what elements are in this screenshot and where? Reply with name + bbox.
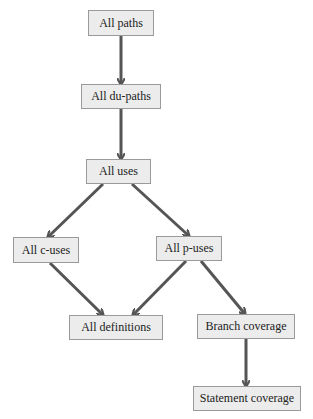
- node-all-definitions: All definitions: [69, 315, 163, 340]
- coverage-criteria-diagram: All paths All du-paths All uses All c-us…: [0, 0, 313, 419]
- arrow-edge: [133, 261, 186, 315]
- node-statement-coverage: Statement coverage: [193, 386, 301, 411]
- node-label: Branch coverage: [206, 319, 287, 334]
- node-label: Statement coverage: [200, 391, 294, 406]
- node-all-paths: All paths: [88, 10, 154, 36]
- node-all-du-paths: All du-paths: [81, 84, 161, 109]
- node-label: All p-uses: [165, 241, 214, 256]
- node-all-c-uses: All c-uses: [13, 237, 79, 263]
- node-label: All c-uses: [22, 243, 70, 258]
- node-all-p-uses: All p-uses: [156, 236, 222, 261]
- node-all-uses: All uses: [86, 159, 151, 184]
- edges-layer: [0, 0, 313, 419]
- node-label: All du-paths: [91, 89, 151, 104]
- node-label: All definitions: [81, 320, 151, 335]
- arrow-edge: [132, 184, 189, 236]
- node-branch-coverage: Branch coverage: [197, 314, 295, 339]
- node-label: All uses: [99, 164, 138, 179]
- node-label: All paths: [99, 16, 143, 31]
- arrow-edge: [48, 184, 103, 237]
- arrow-edge: [50, 263, 103, 315]
- arrow-edge: [201, 261, 245, 314]
